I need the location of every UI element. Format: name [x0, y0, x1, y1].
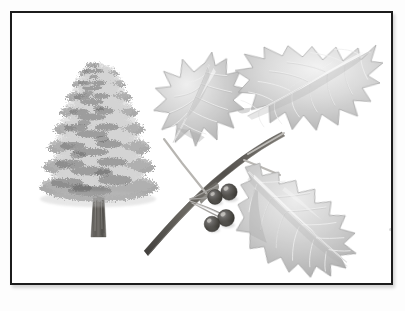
specimen-label-tree: Conifer tree	[0, 0, 1, 1]
page-title: Botanical plate: conifer tree and holly …	[0, 21, 1, 22]
paper-grain	[12, 13, 391, 283]
plate-frame	[10, 11, 393, 285]
botanical-illustration	[12, 13, 391, 283]
illustration-page: Botanical plate: conifer tree and holly …	[0, 0, 405, 311]
edge-speck	[389, 228, 391, 231]
specimen-list: Conifer tree Holly branch with leaves an…	[0, 0, 1, 1]
plate-canvas	[12, 13, 391, 283]
